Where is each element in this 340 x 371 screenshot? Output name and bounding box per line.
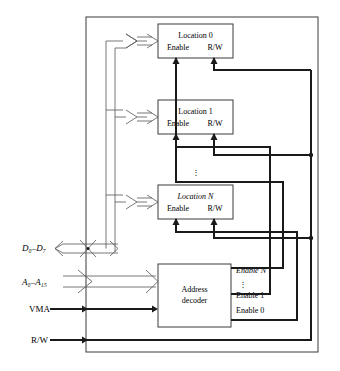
location-n-title: Location N (177, 192, 214, 201)
enable-0-label: Enable 0 (236, 306, 264, 315)
location-n-rw-label: R/W (207, 204, 223, 213)
address-bus-wiring (63, 270, 158, 293)
enable-1-label: Enable 1 (236, 291, 264, 300)
data-bus-label: D₀–D₇ (21, 243, 46, 253)
location-0-enable-label: Enable (167, 43, 190, 52)
data-bus-wiring (55, 41, 126, 257)
memory-system-diagram: Location 0 Enable R/W Location 1 Enable … (0, 0, 340, 371)
location-1-title: Location 1 (178, 107, 212, 116)
enable-n-wiring (173, 57, 284, 268)
location-0-box[interactable] (158, 24, 233, 58)
address-decoder-line2: decoder (182, 296, 208, 305)
enable-ellipsis: ⋮ (239, 280, 247, 289)
locations-ellipsis: ⋮ (192, 168, 200, 177)
address-decoder-line1: Address (181, 285, 207, 294)
rw-label: R/W (31, 335, 49, 345)
data-bus-arrow-location-1 (126, 110, 158, 124)
data-bus-arrow-location-n (126, 195, 158, 209)
location-0-rw-label: R/W (207, 43, 223, 52)
location-1-enable-label: Enable (167, 119, 190, 128)
location-1-box[interactable] (158, 100, 233, 134)
address-bus-label: A₀–A₁₅ (21, 277, 47, 287)
data-bus-arrow-location-0 (126, 34, 158, 48)
location-0-title: Location 0 (178, 31, 212, 40)
location-n-box[interactable] (158, 185, 233, 219)
vma-wiring (50, 306, 158, 313)
vma-label: VMA (29, 304, 51, 314)
location-n-enable-label: Enable (167, 204, 190, 213)
diagram-canvas: Location 0 Enable R/W Location 1 Enable … (0, 0, 340, 371)
location-1-rw-label: R/W (207, 119, 223, 128)
